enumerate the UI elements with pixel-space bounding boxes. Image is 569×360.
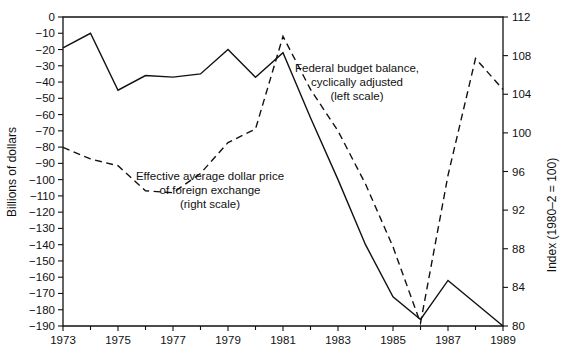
annotation-line: cyclically adjusted — [311, 76, 403, 88]
x-tick-label: 1975 — [105, 334, 131, 346]
y-tick-right-label: 92 — [512, 204, 525, 216]
chart-container: 197319751977197919811983198519871989 0−1… — [0, 0, 569, 360]
solid-series-label: Federal budget balance,cyclically adjust… — [295, 62, 419, 102]
x-tick-label: 1987 — [435, 334, 461, 346]
y-tick-left-label: 0 — [49, 11, 55, 23]
y-tick-right-label: 108 — [512, 50, 531, 62]
y-tick-right-label: 84 — [512, 281, 525, 293]
x-tick-label: 1977 — [160, 334, 186, 346]
y-tick-left-label: −40 — [35, 76, 55, 88]
x-tick-label: 1973 — [50, 334, 76, 346]
y-tick-left-label: −60 — [35, 109, 55, 121]
dashed-series-label: Effective average dollar priceof foreign… — [136, 170, 284, 210]
y-tick-left-label: −170 — [29, 287, 55, 299]
annotation-line: of foreign exchange — [159, 184, 260, 196]
y-tick-left-label: −20 — [35, 44, 55, 56]
y-tick-left-label: −190 — [29, 320, 55, 332]
y-tick-right-label: 88 — [512, 243, 525, 255]
annotations-group: Federal budget balance,cyclically adjust… — [136, 62, 419, 210]
x-axis-ticks: 197319751977197919811983198519871989 — [50, 326, 516, 346]
x-tick-label: 1989 — [490, 334, 516, 346]
y-tick-left-label: −80 — [35, 141, 55, 153]
y-tick-right-label: 96 — [512, 166, 525, 178]
x-tick-label: 1985 — [380, 334, 406, 346]
y-axis-left-title: Billions of dollars — [5, 127, 19, 217]
y-tick-left-label: −120 — [29, 206, 55, 218]
y-tick-left-label: −160 — [29, 271, 55, 283]
y-tick-left-label: −10 — [35, 27, 55, 39]
annotation-line: (left scale) — [330, 90, 383, 102]
y-tick-left-label: −90 — [35, 157, 55, 169]
y-tick-left-label: −50 — [35, 92, 55, 104]
annotation-line: Federal budget balance, — [295, 62, 419, 74]
y-tick-left-label: −30 — [35, 60, 55, 72]
x-tick-label: 1983 — [325, 334, 351, 346]
y-tick-right-label: 80 — [512, 320, 525, 332]
x-tick-label: 1979 — [215, 334, 241, 346]
line-chart: 197319751977197919811983198519871989 0−1… — [0, 0, 569, 360]
y-tick-left-label: −140 — [29, 239, 55, 251]
annotation-line: Effective average dollar price — [136, 170, 284, 182]
y-tick-left-label: −130 — [29, 222, 55, 234]
y-tick-right-label: 104 — [512, 88, 532, 100]
x-tick-label: 1981 — [270, 334, 296, 346]
annotation-line: (right scale) — [180, 198, 240, 210]
y-tick-left-label: −110 — [30, 190, 55, 202]
y-tick-left-label: −70 — [35, 125, 55, 137]
y-tick-left-label: −180 — [29, 304, 55, 316]
y-tick-right-label: 112 — [512, 11, 530, 23]
y-axis-right-title: Index (1980–2 = 100) — [545, 158, 559, 272]
y-tick-left-label: −100 — [29, 174, 55, 186]
y-axis-left-ticks: 0−10−20−30−40−50−60−70−80−90−100−110−120… — [29, 11, 63, 332]
y-axis-right-ticks: 1121081041009692888480 — [503, 11, 532, 332]
y-tick-left-label: −150 — [29, 255, 55, 267]
y-tick-right-label: 100 — [512, 127, 531, 139]
